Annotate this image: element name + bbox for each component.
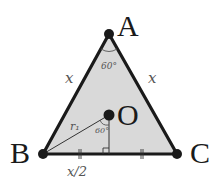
center-o-dot [104,110,115,121]
vertex-b-dot [38,149,48,159]
radius-label: r₁ [70,120,80,133]
vertex-c-dot [172,149,182,159]
label-b: B [10,136,30,169]
label-a: A [117,9,139,42]
side-label-left: x [65,69,74,87]
label-o: O [117,98,139,131]
half-base-label: x/2 [67,164,87,179]
triangle-abc [43,34,177,154]
vertex-a-dot [104,29,114,39]
diagram-canvas: A B C O x x 60° 60° r₁ x/2 [0,0,224,187]
angle-label-o: 60° [95,126,109,135]
angle-label-a: 60° [101,61,117,71]
label-c: C [190,136,210,169]
side-label-right: x [148,69,157,87]
